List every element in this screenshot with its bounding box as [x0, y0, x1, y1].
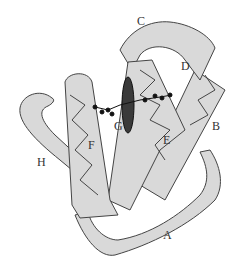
label-c: C [137, 15, 145, 27]
label-g: G [114, 120, 123, 132]
label-a: A [163, 229, 172, 241]
ribbon-diagram [0, 0, 244, 275]
label-b: B [212, 120, 220, 132]
label-f: F [88, 139, 95, 151]
heme-disc [122, 77, 134, 133]
label-d: D [181, 60, 190, 72]
label-h: H [37, 156, 46, 168]
label-e: E [163, 134, 170, 146]
